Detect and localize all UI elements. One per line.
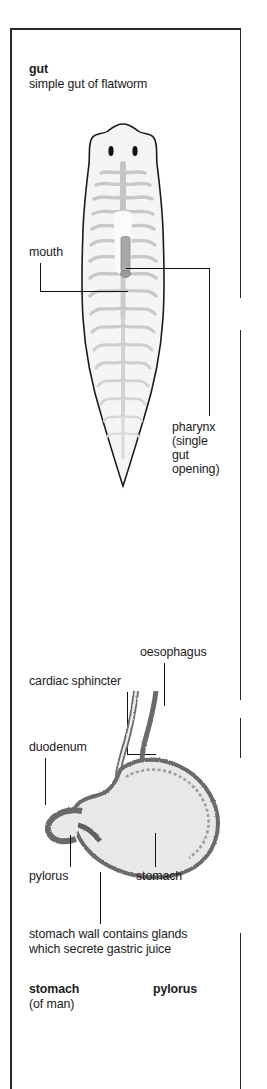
flatworm-heading: gut	[29, 62, 48, 76]
label-stomach-wall-note-line2: which secrete gastric juice	[29, 942, 171, 956]
label-pharynx-line3: gut	[172, 448, 189, 462]
caption-pylorus-title: pylorus	[153, 982, 197, 996]
label-pharynx-line1: pharynx	[172, 420, 215, 434]
label-pylorus: pylorus	[29, 869, 68, 883]
frame-right-edge-bottom	[240, 933, 242, 1089]
flatworm-subheading: simple gut of flatworm	[29, 77, 147, 91]
label-oesophagus: oesophagus	[140, 645, 207, 659]
label-mouth: mouth	[29, 245, 63, 259]
flatworm-eyespot-right	[132, 146, 137, 156]
frame-right-edge-upper	[240, 28, 242, 298]
frame-right-edge-lower	[240, 718, 242, 758]
leader-pylorus	[70, 835, 71, 867]
leader-mouth-vertical	[40, 263, 41, 292]
leader-stomach-wall-note	[100, 872, 101, 924]
flatworm-eyespot-left	[108, 146, 113, 156]
label-stomach-wall-note-line1: stomach wall contains glands	[29, 927, 187, 941]
leader-stomach	[155, 833, 156, 867]
leader-pharynx-horizontal	[126, 268, 210, 269]
frame-top-edge	[10, 28, 241, 30]
label-pharynx-line2: (single	[172, 434, 208, 448]
oesophagus-outer-edge	[142, 691, 156, 763]
frame-right-edge-mid	[240, 330, 242, 700]
flatworm-mouth-opening	[121, 271, 131, 278]
label-pharynx-line4: opening)	[172, 462, 219, 476]
stomach-diagram	[30, 685, 230, 885]
flatworm-diagram	[68, 118, 178, 498]
leader-pharynx-vertical	[209, 268, 210, 416]
caption-stomach-title: stomach	[29, 982, 79, 996]
leader-mouth-horizontal	[40, 291, 128, 292]
frame-left-edge	[10, 28, 12, 1089]
caption-stomach-subtitle: (of man)	[29, 997, 74, 1011]
label-stomach: stomach	[136, 869, 182, 883]
